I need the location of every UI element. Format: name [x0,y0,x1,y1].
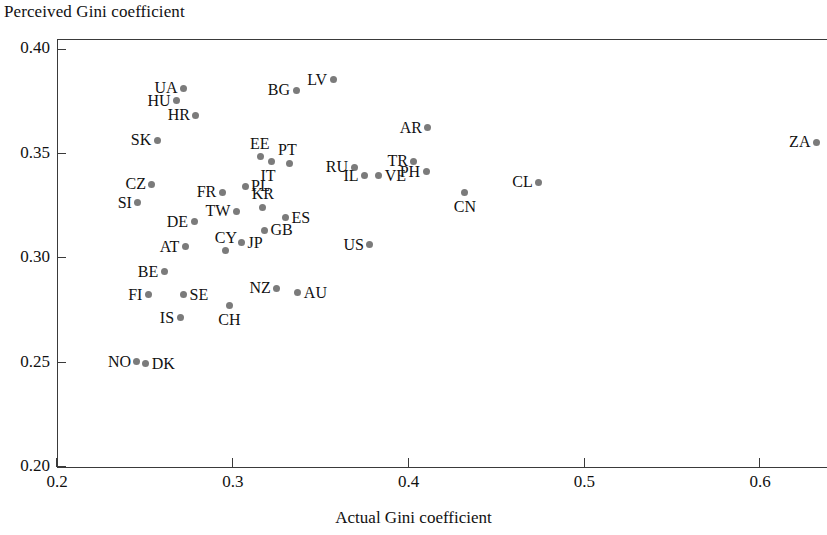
data-point-label: KR [252,186,274,202]
x-tick-mark [584,458,585,467]
data-point-label: FR [197,184,217,200]
y-tick-label: 0.25 [0,352,50,372]
data-point-label: VE [385,168,406,184]
data-point [423,168,430,175]
data-point [282,214,289,221]
data-point-label: BG [268,82,290,98]
data-point [180,291,187,298]
data-point-label: CY [215,230,237,246]
y-tick-mark [57,362,66,363]
data-point-label: US [343,237,363,253]
y-axis-title: Perceived Gini coefficient [4,2,185,22]
data-point [261,227,268,234]
data-point-label: AT [160,239,180,255]
data-point-label: IL [344,168,359,184]
plot-frame-top-border [57,39,827,40]
y-tick-mark [57,466,66,467]
data-point [142,360,149,367]
data-point [145,291,152,298]
data-point-label: AR [400,120,422,136]
y-tick-label: 0.35 [0,143,50,163]
data-point [535,179,542,186]
data-point [375,172,382,179]
data-point [461,189,468,196]
x-tick-mark [56,458,57,467]
data-point [161,268,168,275]
y-tick-label: 0.40 [0,38,50,58]
data-point-label: SE [190,287,209,303]
data-point [273,285,280,292]
data-point [173,97,180,104]
data-point [286,160,293,167]
x-tick-mark [759,458,760,467]
data-point-label: JP [248,235,263,251]
data-point-label: TW [205,203,230,219]
data-point-label: LV [307,72,327,88]
data-point [294,289,301,296]
y-tick-mark [57,257,66,258]
data-point [293,87,300,94]
plot-frame-left-axis [57,39,58,468]
data-point [330,76,337,83]
data-point [154,137,161,144]
data-point [259,204,266,211]
data-point [238,239,245,246]
data-point [182,243,189,250]
data-point-label: BE [138,264,158,280]
data-point [222,247,229,254]
data-point [361,172,368,179]
data-point [134,199,141,206]
data-point [366,241,373,248]
data-point-label: CZ [125,176,145,192]
data-point-label: CN [454,199,476,215]
data-point-label: CL [512,174,532,190]
data-point [192,112,199,119]
data-point [177,314,184,321]
data-point [226,302,233,309]
data-point-label: FI [128,287,142,303]
data-point-label: CH [218,312,240,328]
y-tick-label: 0.30 [0,247,50,267]
data-point-label: GB [270,222,292,238]
data-point-label: ZA [789,134,810,150]
data-point [233,208,240,215]
data-point-label: AU [304,285,327,301]
x-tick-label: 0.5 [554,472,614,492]
data-point [424,124,431,131]
data-point [191,218,198,225]
x-tick-mark [232,458,233,467]
data-point [133,358,140,365]
y-tick-mark [57,49,66,50]
data-point-label: EE [250,136,270,152]
x-tick-label: 0.2 [27,472,87,492]
data-point-label: DE [167,214,188,230]
data-point-label: SI [118,195,132,211]
plot-frame-bottom-axis [57,467,827,468]
data-point [219,189,226,196]
data-point [148,181,155,188]
data-point [813,139,820,146]
data-point-label: DK [152,356,175,372]
data-point-label: HR [168,107,190,123]
data-point-label: SK [131,132,151,148]
x-tick-mark [408,458,409,467]
data-point-label: PT [278,142,297,158]
data-point-label: IS [160,310,174,326]
data-point [257,153,264,160]
data-point-label: NZ [249,280,270,296]
data-point [180,85,187,92]
data-point-label: ES [292,210,311,226]
data-point [242,183,249,190]
x-axis-title: Actual Gini coefficient [0,508,827,528]
x-tick-label: 0.6 [730,472,790,492]
data-point-label: NO [108,354,131,370]
scatter-plot-figure: Perceived Gini coefficient 0.200.250.300… [0,0,827,535]
x-tick-label: 0.3 [203,472,263,492]
x-tick-label: 0.4 [379,472,439,492]
data-point [268,158,275,165]
y-tick-mark [57,153,66,154]
